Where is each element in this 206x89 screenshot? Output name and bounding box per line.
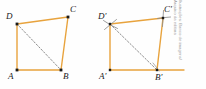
label-vertex-a: A bbox=[8, 72, 14, 81]
right-vertex-dot-a bbox=[109, 69, 111, 71]
illustration-credit: Ilustrações: Banco de imagens/ Arquivo d… bbox=[160, 0, 183, 89]
credit-line-1: Ilustrações: Banco de imagens/ bbox=[178, 0, 183, 89]
left-side-bc bbox=[61, 17, 68, 70]
label-vertex-c: C bbox=[70, 5, 76, 14]
left-side-cd bbox=[17, 17, 68, 24]
right-diagonal-db bbox=[110, 24, 157, 70]
left-diagonal-db bbox=[17, 24, 61, 70]
left-vertex-dot-d bbox=[16, 23, 19, 26]
right-side-cd bbox=[110, 18, 163, 24]
label-vertex-d-prime: D' bbox=[98, 12, 106, 21]
left-vertex-dot-b bbox=[60, 69, 63, 72]
label-vertex-d: D bbox=[6, 12, 13, 21]
geometry-figure: A B C D A' B' C' D' Ilustrações: Banco d… bbox=[0, 0, 206, 89]
left-vertex-dot-c bbox=[67, 16, 70, 19]
left-vertex-dot-a bbox=[16, 69, 19, 72]
label-vertex-b: B bbox=[63, 72, 69, 81]
label-vertex-a-prime: A' bbox=[99, 72, 106, 81]
right-vertex-dot-b bbox=[156, 69, 158, 71]
right-vertex-dot-d bbox=[109, 23, 111, 25]
left-quadrilateral-group bbox=[16, 16, 70, 72]
